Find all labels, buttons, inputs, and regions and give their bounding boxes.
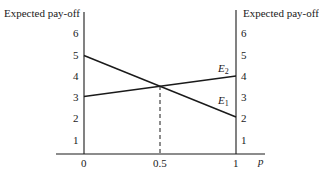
left-tick-4: 4 [73, 70, 79, 82]
right-tick-6: 6 [241, 27, 247, 39]
right-tick-2: 2 [241, 112, 247, 124]
right-axis-title: Expected pay-off [243, 7, 319, 19]
x-tick-0: 0 [81, 157, 87, 169]
right-tick-5: 5 [241, 49, 247, 61]
right-tick-1: 1 [241, 134, 247, 146]
e1-label: E1 [217, 94, 229, 108]
left-tick-2: 2 [73, 112, 79, 124]
left-tick-1: 1 [73, 134, 79, 146]
left-tick-5: 5 [73, 49, 79, 61]
x-tick-0-5: 0.5 [153, 157, 167, 169]
left-tick-6: 6 [73, 27, 79, 39]
left-tick-3: 3 [73, 91, 79, 103]
left-axis-title: Expected pay-off [4, 7, 80, 19]
x-tick-1: 1 [233, 157, 239, 169]
right-tick-4: 4 [241, 70, 247, 82]
right-tick-3: 3 [241, 91, 247, 103]
x-axis-title: p [257, 155, 264, 167]
payoff-chart: Expected pay-off Expected pay-off p 6 5 … [0, 0, 319, 171]
e2-label: E2 [217, 62, 229, 76]
